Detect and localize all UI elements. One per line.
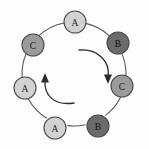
node-b-dark: B [107,32,129,54]
cycle-diagram-figure: ABCBAAC [0,0,149,149]
node-circle [111,75,133,97]
node-circle [87,115,109,137]
cycle-diagram-canvas: ABCBAAC [0,0,149,149]
node-a-light: A [14,77,36,99]
node-a-light: A [44,117,66,139]
node-c-medium: C [22,34,44,56]
node-circle [22,34,44,56]
node-circle [64,11,86,33]
node-circle [44,117,66,139]
node-circle [14,77,36,99]
node-a-light: A [64,11,86,33]
node-c-medium: C [111,75,133,97]
node-circle [107,32,129,54]
node-b-dark: B [87,115,109,137]
